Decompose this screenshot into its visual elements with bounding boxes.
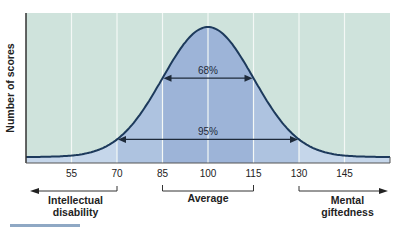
- x-tick-label: 145: [336, 168, 353, 179]
- x-tick-label: 100: [200, 168, 217, 179]
- range-labels: IntellectualdisabilityAverageMentalgifte…: [30, 185, 388, 218]
- bell-curve-chart: 557085100115130145 Number of scores 68%9…: [0, 0, 402, 228]
- x-tick-label: 115: [246, 168, 262, 179]
- svg-text:giftedness: giftedness: [321, 206, 374, 218]
- x-tick-labels: 557085100115130145: [66, 168, 353, 179]
- range-mental: Mentalgiftedness: [299, 186, 388, 218]
- svg-text:disability: disability: [53, 206, 99, 218]
- range-average: Average: [163, 185, 254, 204]
- range-intellectual: Intellectualdisability: [30, 186, 117, 218]
- svg-text:Mental: Mental: [331, 194, 364, 206]
- arrow-right-icon: [379, 188, 388, 194]
- arrow-left-icon: [30, 188, 39, 194]
- x-tick-label: 130: [291, 168, 308, 179]
- svg-text:Intellectual: Intellectual: [48, 194, 103, 206]
- svg-text:95%: 95%: [198, 126, 218, 137]
- svg-text:Average: Average: [187, 192, 228, 204]
- x-tick-label: 85: [157, 168, 169, 179]
- x-tick-label: 70: [111, 168, 123, 179]
- x-tick-label: 55: [66, 168, 78, 179]
- svg-text:68%: 68%: [198, 65, 218, 76]
- decorative-bar: [10, 224, 80, 227]
- y-axis-label: Number of scores: [4, 43, 16, 132]
